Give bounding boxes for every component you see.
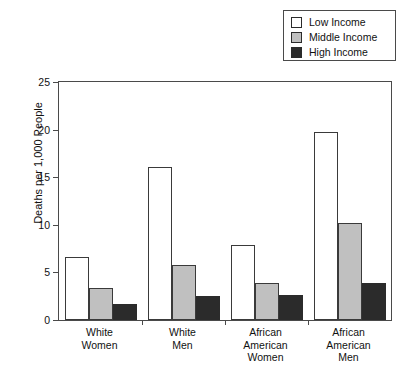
x-axis-group-label-line: Women xyxy=(224,351,307,364)
x-axis-group-label-line: White xyxy=(141,326,224,339)
x-axis-tick xyxy=(225,320,226,325)
legend-item-low-income: Low Income xyxy=(291,15,389,29)
x-axis-tick xyxy=(142,320,143,325)
bar xyxy=(148,167,172,320)
x-axis-group-label-line: White xyxy=(58,326,141,339)
legend-swatch-low-income xyxy=(291,17,302,28)
bar xyxy=(196,296,220,320)
bar xyxy=(338,223,362,320)
bar xyxy=(255,283,279,320)
y-axis-tick-label: 25 xyxy=(38,76,50,88)
x-axis-group-label: AfricanAmericanWomen xyxy=(224,326,307,364)
x-axis-group-label-line: African xyxy=(307,326,390,339)
bar xyxy=(314,132,338,320)
x-axis-group-label-line: Men xyxy=(307,351,390,364)
x-axis-tick xyxy=(308,320,309,325)
bar xyxy=(172,265,196,320)
plot-area: 0510152025 xyxy=(58,81,392,321)
y-axis-tick-label: 0 xyxy=(44,314,50,326)
legend-item-middle-income: Middle Income xyxy=(291,30,389,44)
legend-label-high-income: High Income xyxy=(309,47,368,58)
x-axis-group-label-line: Women xyxy=(58,339,141,352)
bar-group xyxy=(59,82,142,320)
x-axis-group-label-line: Men xyxy=(141,339,224,352)
bar-chart: Low Income Middle Income High Income Dea… xyxy=(0,0,407,385)
bar xyxy=(231,245,255,320)
chart-legend: Low Income Middle Income High Income xyxy=(283,10,396,61)
y-axis-tick-label: 10 xyxy=(38,219,50,231)
x-axis-group-label-line: American xyxy=(307,339,390,352)
bar-group xyxy=(308,82,391,320)
x-axis-group-label-line: African xyxy=(224,326,307,339)
y-axis-tick-label: 5 xyxy=(44,266,50,278)
x-axis-group-label: AfricanAmericanMen xyxy=(307,326,390,364)
bar xyxy=(362,283,386,320)
legend-label-middle-income: Middle Income xyxy=(309,32,377,43)
legend-swatch-high-income xyxy=(291,47,302,58)
legend-label-low-income: Low Income xyxy=(309,17,366,28)
y-axis-tick-label: 15 xyxy=(38,171,50,183)
y-axis-tick xyxy=(53,320,59,321)
bar-group xyxy=(225,82,308,320)
bar-group xyxy=(142,82,225,320)
bar xyxy=(89,288,113,320)
bar xyxy=(113,304,137,320)
y-axis-tick-label: 20 xyxy=(38,124,50,136)
legend-item-high-income: High Income xyxy=(291,45,389,59)
bar xyxy=(65,257,89,320)
bar xyxy=(279,295,303,320)
x-axis-group-label: WhiteWomen xyxy=(58,326,141,351)
y-axis-title: Deaths per 1,000 People xyxy=(32,63,44,263)
legend-swatch-middle-income xyxy=(291,32,302,43)
x-axis-group-label-line: American xyxy=(224,339,307,352)
x-axis-group-label: WhiteMen xyxy=(141,326,224,351)
